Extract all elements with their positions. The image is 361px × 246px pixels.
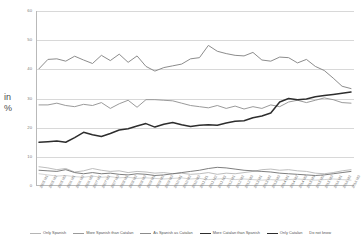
y-axis-tick-label: 0 bbox=[16, 184, 32, 188]
legend-item[interactable]: Do not know bbox=[309, 230, 331, 236]
legend-label: Do not know bbox=[309, 230, 331, 236]
legend-label: As Spanish as Catalan bbox=[153, 230, 192, 236]
legend-color-swatch bbox=[200, 233, 211, 234]
legend-color-swatch bbox=[30, 233, 41, 234]
y-axis-tick-label: 60 bbox=[16, 9, 32, 13]
y-axis-tick-label: 20 bbox=[16, 126, 32, 130]
legend-label: More Spanish than Catalan bbox=[86, 230, 133, 236]
legend-item[interactable]: More Spanish than Catalan bbox=[73, 230, 133, 236]
y-axis-title: in % bbox=[4, 92, 26, 114]
chart-legend: Only SpanishMore Spanish than CatalanAs … bbox=[0, 224, 361, 242]
legend-item[interactable]: Only Catalan bbox=[267, 230, 303, 236]
x-axis-labels: 2005 M12005 M22005 M32006 M12006 M22006 … bbox=[36, 187, 356, 219]
y-axis-tick-label: 10 bbox=[16, 155, 32, 159]
y-axis-tick-label: 50 bbox=[16, 38, 32, 42]
legend-color-swatch bbox=[73, 233, 84, 234]
y-axis-title-line2: % bbox=[4, 103, 26, 114]
legend-color-swatch bbox=[140, 233, 151, 234]
legend-label: Only Catalan bbox=[280, 230, 303, 236]
y-axis-tick-label: 40 bbox=[16, 67, 32, 71]
legend-item[interactable]: More Catalan than Spanish bbox=[200, 230, 260, 236]
series-lines bbox=[36, 11, 354, 186]
plot-area bbox=[36, 11, 354, 186]
line-chart: in % 0102030405060 2005 M12005 M22005 M3… bbox=[0, 0, 361, 246]
legend-item[interactable]: Only Spanish bbox=[30, 230, 66, 236]
series-line bbox=[39, 45, 351, 88]
series-line bbox=[39, 92, 351, 142]
legend-label: More Catalan than Spanish bbox=[213, 230, 260, 236]
legend-item[interactable]: As Spanish as Catalan bbox=[140, 230, 192, 236]
legend-color-swatch bbox=[267, 233, 278, 234]
y-axis-tick-label: 30 bbox=[16, 97, 32, 101]
legend-label: Only Spanish bbox=[43, 230, 66, 236]
